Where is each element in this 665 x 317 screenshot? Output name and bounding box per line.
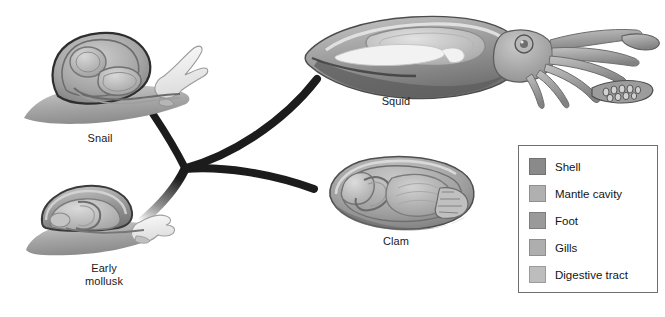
legend-swatch-shell xyxy=(529,158,546,175)
legend-item-gills: Gills xyxy=(529,234,657,261)
early-mollusk-caption: Early mollusk xyxy=(64,262,144,288)
legend-swatch-digestive-tract xyxy=(529,266,546,283)
mollusk-evolution-diagram: Snail xyxy=(0,0,665,317)
clam-illustration xyxy=(312,152,484,236)
early-mollusk-illustration xyxy=(22,178,202,262)
legend-swatch-mantle-cavity xyxy=(529,185,546,202)
squid-caption: Squid xyxy=(356,95,436,108)
legend-swatch-foot xyxy=(529,212,546,229)
legend-item-shell: Shell xyxy=(529,153,657,180)
legend-label-mantle-cavity: Mantle cavity xyxy=(555,188,622,200)
legend-item-mantle-cavity: Mantle cavity xyxy=(529,180,657,207)
legend-label-gills: Gills xyxy=(555,242,577,254)
legend-item-foot: Foot xyxy=(529,207,657,234)
snail-caption: Snail xyxy=(60,132,140,145)
legend-label-shell: Shell xyxy=(555,161,581,173)
legend-swatch-gills xyxy=(529,239,546,256)
clam-caption: Clam xyxy=(356,235,436,248)
legend-item-digestive-tract: Digestive tract xyxy=(529,261,657,288)
legend-label-digestive-tract: Digestive tract xyxy=(555,269,628,281)
snail-illustration xyxy=(14,14,214,134)
squid-illustration xyxy=(292,6,662,114)
legend-box: Shell Mantle cavity Foot Gills Digestive… xyxy=(518,145,658,293)
legend-label-foot: Foot xyxy=(555,215,578,227)
